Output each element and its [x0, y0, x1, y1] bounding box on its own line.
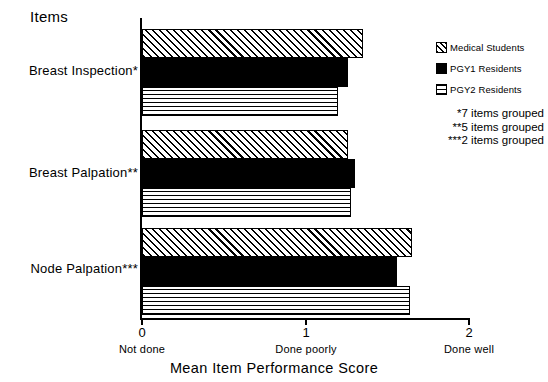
bar-medical-students-breast-inspection	[142, 29, 363, 58]
footnote-2: **5 items grouped	[400, 121, 544, 135]
x-tick-sublabel-not-done: Not done	[119, 343, 165, 355]
category-label-breast-palpation: Breast Palpation**	[29, 165, 138, 180]
bar-medical-students-breast-palpation	[142, 130, 348, 159]
legend-label-pgy2-residents: PGY2 Residents	[450, 84, 522, 95]
category-label-node-palpation: Node Palpation***	[31, 261, 138, 276]
footnote-1: *7 items grouped	[400, 107, 544, 121]
legend-label-pgy1-residents: PGY1 Residents	[450, 63, 522, 74]
legend: Medical Students PGY1 Residents PGY2 Res…	[436, 40, 524, 103]
bar-pgy2-residents-node-palpation	[142, 286, 410, 315]
legend-item-pgy1-residents: PGY1 Residents	[436, 61, 524, 76]
bar-pgy1-residents-breast-palpation	[142, 159, 355, 188]
legend-swatch-solid-icon	[436, 63, 447, 74]
bar-pgy1-residents-breast-inspection	[142, 58, 348, 87]
bar-pgy2-residents-breast-inspection	[142, 87, 338, 116]
bar-medical-students-node-palpation	[142, 228, 412, 257]
x-axis-title: Mean Item Performance Score	[0, 360, 548, 376]
footnote-3: ***2 items grouped	[400, 134, 544, 148]
bar-chart: Items Breast Inspection* Breast Palpatio…	[0, 0, 548, 382]
legend-label-medical-students: Medical Students	[450, 42, 524, 53]
legend-swatch-grid-icon	[436, 84, 447, 95]
y-axis-title: Items	[30, 8, 68, 25]
category-label-breast-inspection: Breast Inspection*	[29, 63, 138, 78]
bar-pgy2-residents-breast-palpation	[142, 188, 351, 217]
legend-swatch-hatch-icon	[436, 42, 447, 53]
x-tick-label-0: 0	[138, 325, 145, 340]
bar-pgy1-residents-node-palpation	[142, 257, 397, 286]
x-tick-sublabel-done-poorly: Done poorly	[275, 343, 337, 355]
legend-item-pgy2-residents: PGY2 Residents	[436, 82, 524, 97]
legend-item-medical-students: Medical Students	[436, 40, 524, 55]
x-tick-sublabel-done-well: Done well	[444, 343, 494, 355]
footnotes: *7 items grouped **5 items grouped ***2 …	[400, 107, 544, 148]
x-tick-label-1: 1	[302, 325, 309, 340]
x-tick-label-2: 2	[465, 325, 472, 340]
